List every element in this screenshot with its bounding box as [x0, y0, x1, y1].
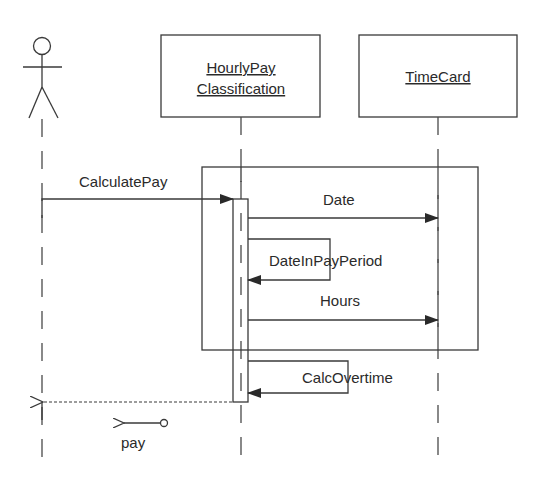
- object-hourly-pay-classification: HourlyPay Classification: [161, 35, 320, 117]
- message-label-hours: Hours: [320, 292, 360, 309]
- message-label-date: Date: [323, 191, 355, 208]
- object-name-line1: HourlyPay: [206, 59, 276, 76]
- data-token-arrow-icon: [124, 420, 168, 427]
- sequence-diagram: HourlyPay Classification TimeCard Calcul…: [0, 0, 540, 490]
- object-name-line2: Classification: [197, 80, 285, 97]
- message-arrow-calculate-pay: [42, 199, 233, 218]
- message-label-calculate-pay: CalculatePay: [79, 173, 168, 190]
- message-label-date-in-pay-period: DateInPayPeriod: [269, 252, 382, 269]
- actor-icon: [23, 38, 62, 119]
- message-label-calc-overtime: CalcOvertime: [302, 369, 393, 386]
- return-value-label: pay: [121, 434, 146, 451]
- object-timecard: TimeCard: [359, 35, 517, 117]
- object-name: TimeCard: [405, 68, 470, 85]
